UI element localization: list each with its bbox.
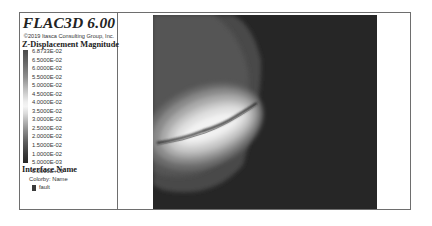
colorbar-label: 3.5000E-02 <box>32 107 63 116</box>
interface-title: Interface Name <box>22 165 77 174</box>
colorbar-label: 3.0000E-02 <box>32 115 63 124</box>
colorbar-label: 5.5000E-02 <box>32 73 63 82</box>
colorbar-label: 2.5000E-02 <box>32 124 63 133</box>
colorby-text: Colorby: Name <box>29 176 68 182</box>
colorbar-label: 5.0000E-02 <box>32 81 63 90</box>
colorbar-label: 1.5000E-02 <box>32 141 63 150</box>
fault-swatch <box>32 185 36 191</box>
copyright-text: ©2019 Itasca Consulting Group, Inc. <box>20 33 118 39</box>
colorbar-label: 4.5000E-02 <box>32 90 63 99</box>
colorbar-label: 1.0000E-02 <box>32 150 63 159</box>
contour-graphic <box>153 15 377 209</box>
colorbar-label: 2.0000E-02 <box>32 132 63 141</box>
legend-panel: FLAC3D 6.00 ©2019 Itasca Consulting Grou… <box>20 13 118 209</box>
app-title: FLAC3D 6.00 <box>20 14 118 32</box>
colorbar-label: 6.0000E-02 <box>32 64 63 73</box>
colorbar-label: 6.8733E-02 <box>32 47 63 56</box>
colorbar-labels: 6.8733E-02 6.5000E-02 6.0000E-02 5.5000E… <box>32 47 63 175</box>
plot-window: FLAC3D 6.00 ©2019 Itasca Consulting Grou… <box>19 12 411 210</box>
fault-label: fault <box>39 184 50 190</box>
colorbar <box>23 50 28 163</box>
contour-plot[interactable] <box>153 15 377 209</box>
colorbar-label: 6.5000E-02 <box>32 56 63 65</box>
colorbar-label: 4.0000E-02 <box>32 98 63 107</box>
